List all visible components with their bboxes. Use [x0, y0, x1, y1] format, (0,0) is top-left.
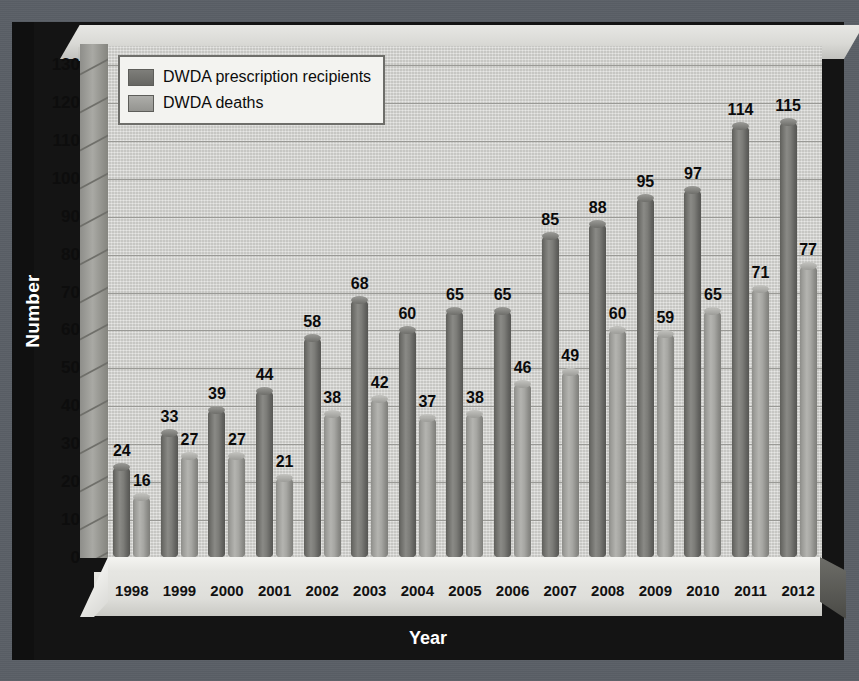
bar[interactable]: 97	[684, 190, 701, 558]
x-axis-ticks: 1998199920002001200220032004200520062007…	[108, 578, 822, 604]
chart-legend: DWDA prescription recipients DWDA deaths	[118, 55, 385, 125]
bar-cap	[780, 118, 797, 126]
axis-wall-ledge	[80, 434, 108, 457]
bar-cap	[228, 452, 245, 460]
bar-value-label: 115	[775, 97, 801, 115]
bar-cap	[161, 429, 178, 437]
axis-wall-ledge	[80, 472, 108, 495]
y-tick-label: 30	[34, 434, 80, 454]
bar-value-label: 77	[799, 241, 817, 259]
legend-swatch-prescription-recipients	[128, 69, 154, 86]
axis-wall-ledge	[80, 547, 108, 558]
bar-cap	[466, 410, 483, 418]
bar-value-label: 88	[589, 199, 607, 217]
bar[interactable]: 46	[514, 384, 531, 558]
bar[interactable]: 44	[256, 391, 273, 558]
bar[interactable]: 71	[752, 289, 769, 558]
legend-item-1: DWDA deaths	[128, 90, 371, 116]
y-axis-title: Number	[22, 256, 44, 366]
legend-label-deaths: DWDA deaths	[163, 94, 263, 112]
bar[interactable]: 58	[304, 338, 321, 558]
bar[interactable]: 21	[276, 478, 293, 558]
y-tick-label: 90	[34, 207, 80, 227]
bar[interactable]: 49	[562, 372, 579, 558]
bar-value-label: 97	[684, 165, 702, 183]
bar[interactable]: 65	[704, 311, 721, 558]
chart-screenshot: 0102030405060708090100110120130 Number 2…	[0, 0, 859, 681]
bar[interactable]: 60	[609, 330, 626, 558]
bar-cap	[304, 334, 321, 342]
y-tick-label: 120	[34, 93, 80, 113]
bar[interactable]: 115	[780, 122, 797, 558]
bar[interactable]: 27	[228, 456, 245, 558]
bar-group: 8860	[584, 46, 632, 558]
bar-value-label: 65	[446, 286, 464, 304]
bar-cap	[800, 262, 817, 270]
bar[interactable]: 77	[800, 266, 817, 558]
bar-cap	[684, 186, 701, 194]
bar-group: 6037	[394, 46, 442, 558]
bar-value-label: 38	[323, 389, 341, 407]
x-tick-label: 2000	[203, 578, 251, 604]
bar[interactable]: 65	[494, 311, 511, 558]
bar[interactable]: 39	[208, 410, 225, 558]
bar-group: 8549	[536, 46, 584, 558]
axis-wall-ledge	[80, 282, 108, 305]
axis-wall-ledge	[80, 244, 108, 267]
bar[interactable]: 95	[637, 198, 654, 558]
bar-group: 11471	[727, 46, 775, 558]
legend-label-prescription-recipients: DWDA prescription recipients	[163, 68, 371, 86]
bar-value-label: 95	[636, 173, 654, 191]
axis-wall-ledge	[80, 358, 108, 381]
bar-value-label: 42	[371, 374, 389, 392]
bar-cap	[637, 194, 654, 202]
bar[interactable]: 33	[161, 433, 178, 558]
bar-value-label: 44	[256, 366, 274, 384]
y-tick-label: 40	[34, 396, 80, 416]
y-tick-label: 100	[34, 169, 80, 189]
bar-value-label: 38	[466, 389, 484, 407]
bar[interactable]: 59	[657, 334, 674, 558]
bar[interactable]: 42	[371, 399, 388, 558]
bar-cap	[609, 326, 626, 334]
x-tick-label: 2003	[346, 578, 394, 604]
bar[interactable]: 68	[351, 300, 368, 558]
axis-wall-ledge	[80, 396, 108, 419]
bar-group: 9765	[679, 46, 727, 558]
bar[interactable]: 37	[419, 418, 436, 558]
bar-value-label: 24	[113, 442, 131, 460]
x-tick-label: 2010	[679, 578, 727, 604]
bar-cap	[589, 220, 606, 228]
bar[interactable]: 65	[446, 311, 463, 558]
bar-value-label: 58	[303, 313, 321, 331]
y-tick-label: 130	[34, 55, 80, 75]
bar-value-label: 65	[704, 286, 722, 304]
bar[interactable]: 114	[732, 126, 749, 558]
bar-cap	[181, 452, 198, 460]
bar-cap	[446, 307, 463, 315]
bar-value-label: 39	[208, 385, 226, 403]
bar[interactable]: 38	[324, 414, 341, 558]
bar-value-label: 27	[180, 431, 198, 449]
bar[interactable]: 60	[399, 330, 416, 558]
y-axis-wall-3d	[80, 44, 108, 558]
bar-cap	[657, 330, 674, 338]
bar[interactable]: 24	[113, 467, 130, 558]
x-tick-label: 2007	[536, 578, 584, 604]
bar[interactable]: 16	[133, 497, 150, 558]
x-tick-label: 2004	[394, 578, 442, 604]
bar-cap	[256, 387, 273, 395]
bar[interactable]: 88	[589, 224, 606, 558]
bar-value-label: 71	[752, 264, 770, 282]
bar-value-label: 60	[398, 305, 416, 323]
bar[interactable]: 38	[466, 414, 483, 558]
bar[interactable]: 27	[181, 456, 198, 558]
bar-value-label: 59	[656, 309, 674, 327]
x-axis-title: Year	[12, 628, 844, 649]
bar-cap	[351, 296, 368, 304]
bar-group: 6538	[441, 46, 489, 558]
x-tick-label: 2001	[251, 578, 299, 604]
bar[interactable]: 85	[542, 236, 559, 558]
bar-value-label: 21	[276, 453, 294, 471]
y-tick-label: 10	[34, 510, 80, 530]
